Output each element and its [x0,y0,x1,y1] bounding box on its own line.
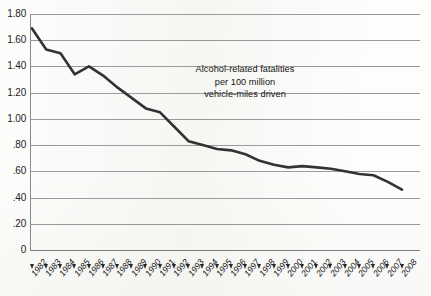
chart-container: 1.80 1.60 1.40 1.20 1.00 .80 .60 .40 .20… [0,0,431,296]
x-axis-labels: 1982198319841985198619871988198919901991… [0,0,431,296]
